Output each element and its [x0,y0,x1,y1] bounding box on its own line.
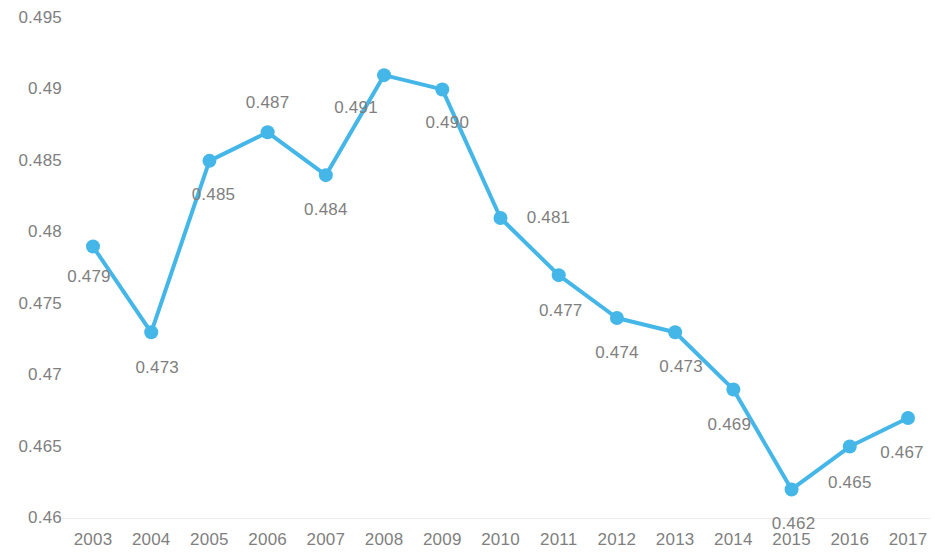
x-tick-label: 2011 [540,530,577,550]
x-tick-label: 2006 [248,530,287,550]
x-tick-label: 2017 [889,530,928,550]
data-point-label: 0.481 [527,208,571,228]
data-point-label: 0.469 [708,415,752,435]
data-point-label: 0.465 [828,473,872,493]
x-tick-label: 2005 [190,530,229,550]
data-point-label: 0.473 [135,358,179,378]
data-point-label: 0.473 [659,357,703,377]
x-tick-label: 2007 [307,530,346,550]
data-point-label: 0.467 [880,443,924,463]
data-point-label: 0.474 [595,343,639,363]
data-point-label: 0.490 [426,113,470,133]
data-point-label: 0.484 [304,200,348,220]
x-axis: 2003200420052006200720082009201020112012… [0,0,935,554]
x-tick-label: 2003 [74,530,113,550]
x-tick-label: 2004 [132,530,171,550]
x-tick-label: 2014 [714,530,753,550]
x-tick-label: 2009 [423,530,462,550]
data-point-label: 0.477 [539,301,583,321]
data-point-label: 0.485 [192,185,236,205]
data-point-label: 0.487 [246,93,290,113]
x-tick-label: 2010 [481,530,520,550]
data-point-label: 0.491 [334,98,378,118]
data-point-label: 0.462 [772,514,816,534]
x-tick-label: 2013 [656,530,695,550]
line-chart: 0.460.4650.470.4750.480.4850.490.495 200… [0,0,935,554]
x-tick-label: 2016 [830,530,869,550]
data-point-label: 0.479 [67,267,111,287]
x-tick-label: 2008 [365,530,404,550]
x-tick-label: 2012 [598,530,637,550]
